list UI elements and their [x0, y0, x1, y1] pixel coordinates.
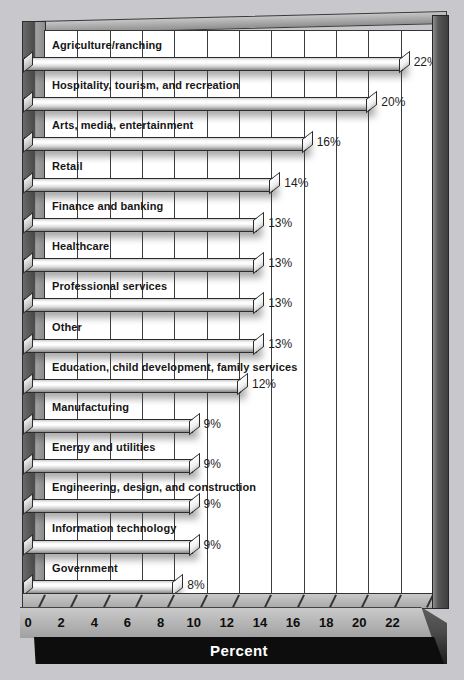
axis-tick-label: 20 [352, 615, 366, 630]
bar-row: Engineering, design, and construction9% [45, 473, 433, 513]
axis-tick [264, 594, 271, 607]
bar-row: Government8% [45, 554, 433, 594]
bar [24, 178, 273, 192]
bar-row: Professional services13% [45, 272, 433, 312]
bar-value-label: 14% [284, 176, 308, 190]
bar [24, 218, 257, 232]
axis-tick-label: 14 [253, 615, 267, 630]
bar-end-cap [189, 453, 200, 476]
axis-tick-label: 8 [157, 615, 164, 630]
bar-end-cap [253, 292, 264, 315]
axis-tick [232, 594, 239, 607]
bar [24, 419, 193, 433]
bar-value-label: 13% [268, 296, 292, 310]
bar [24, 540, 193, 554]
category-label: Education, child development, family ser… [52, 361, 297, 373]
category-label: Other [52, 321, 82, 333]
bar-end-cap [189, 493, 200, 516]
bar [24, 137, 306, 151]
x-axis-title-band: Percent [34, 637, 444, 664]
axis-tick [38, 594, 45, 607]
bar-row: Manufacturing9% [45, 393, 433, 433]
category-label: Engineering, design, and construction [52, 481, 256, 493]
axis-tick-label: 12 [220, 615, 234, 630]
axis-tick-label: 22 [385, 615, 399, 630]
bar-value-label: 9% [204, 497, 221, 511]
category-label: Professional services [52, 280, 167, 292]
bar-value-label: 13% [268, 337, 292, 351]
bar-row: Healthcare13% [45, 232, 433, 272]
bar [24, 379, 241, 393]
bar-end-cap [302, 131, 313, 154]
bar-value-label: 9% [204, 457, 221, 471]
axis-tick-label: 10 [186, 615, 200, 630]
bar-end-cap [189, 413, 200, 436]
axis-tick-label: 18 [319, 615, 333, 630]
bar-value-label: 13% [268, 256, 292, 270]
axis-tick [394, 594, 401, 607]
bar-row: Finance and banking13% [45, 192, 433, 232]
bar-end-cap [237, 372, 248, 395]
axis-tick-band [22, 593, 443, 609]
x-axis-title: Percent [210, 642, 268, 659]
bar-value-label: 8% [187, 578, 204, 592]
category-label: Government [52, 562, 118, 574]
category-label: Finance and banking [52, 200, 163, 212]
category-label: Information technology [52, 522, 176, 534]
bar-row: Retail14% [45, 152, 433, 192]
bar-row: Agriculture/ranching22% [45, 31, 433, 71]
bar-value-label: 12% [252, 377, 276, 391]
bar [24, 97, 370, 111]
bar [24, 499, 193, 513]
axis-tick [135, 594, 142, 607]
bar-end-cap [253, 332, 264, 355]
axis-tick-label: 6 [124, 615, 131, 630]
axis-tick [361, 594, 368, 607]
axis-tick [103, 594, 110, 607]
bar [24, 258, 257, 272]
axis-tick-label: 16 [286, 615, 300, 630]
bar-row: Education, child development, family ser… [45, 353, 433, 393]
category-label: Manufacturing [52, 401, 129, 413]
page-background: Agriculture/ranching22%Hospitality, tour… [0, 0, 464, 680]
bar-end-cap [366, 91, 377, 114]
axis-tick-label: 0 [24, 615, 31, 630]
category-label: Hospitality, tourism, and recreation [52, 79, 239, 91]
category-label: Energy and utilities [52, 441, 155, 453]
bar [24, 298, 257, 312]
bar-value-label: 20% [381, 95, 405, 109]
axis-tick-label: 2 [58, 615, 65, 630]
bar-row: Arts, media, entertainment16% [45, 111, 433, 151]
bar-row: Energy and utilities9% [45, 433, 433, 473]
bar-end-cap [399, 51, 410, 74]
bar [24, 339, 257, 353]
frame-right-wall [432, 15, 449, 609]
x-axis-band: 0246810121416182022 [20, 607, 432, 638]
bar-row: Information technology9% [45, 514, 433, 554]
axis-tick [70, 594, 77, 607]
bar-value-label: 13% [268, 216, 292, 230]
axis-tick [167, 594, 174, 607]
bar-end-cap [253, 212, 264, 235]
category-label: Agriculture/ranching [52, 39, 162, 51]
bar [24, 459, 193, 473]
category-label: Arts, media, entertainment [52, 119, 193, 131]
bar-value-label: 9% [204, 417, 221, 431]
axis-tick [200, 594, 207, 607]
bar [24, 57, 403, 71]
axis-tick [297, 594, 304, 607]
chart-frame: Agriculture/ranching22%Hospitality, tour… [20, 8, 448, 666]
bar-value-label: 9% [204, 538, 221, 552]
bar-value-label: 16% [317, 135, 341, 149]
axis-tick-label: 4 [91, 615, 98, 630]
category-label: Retail [52, 160, 83, 172]
bar-row: Hospitality, tourism, and recreation20% [45, 71, 433, 111]
bar-end-cap [253, 252, 264, 275]
category-label: Healthcare [52, 240, 109, 252]
bar-row: Other13% [45, 313, 433, 353]
bar-end-cap [189, 533, 200, 556]
plot-area: Agriculture/ranching22%Hospitality, tour… [44, 30, 434, 595]
axis-tick [329, 594, 336, 607]
bar-end-cap [269, 171, 280, 194]
bar [24, 580, 176, 594]
